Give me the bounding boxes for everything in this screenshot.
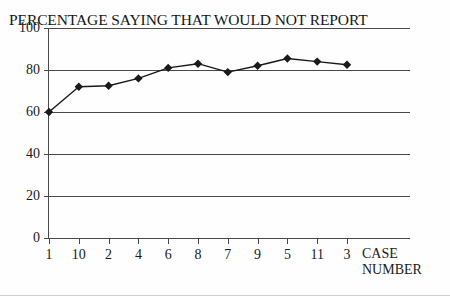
data-point-5 (283, 54, 291, 62)
data-point-8 (194, 60, 202, 68)
data-point-9 (253, 62, 261, 70)
x-axis-title: CASE NUMBER (362, 246, 422, 278)
series-markers (45, 54, 351, 116)
data-point-3 (343, 61, 351, 69)
data-point-11 (313, 57, 321, 65)
data-point-6 (164, 64, 172, 72)
data-point-2 (104, 82, 112, 90)
data-point-7 (224, 68, 232, 76)
chart-screenshot: PERCENTAGE SAYING THAT WOULD NOT REPORT … (0, 0, 450, 296)
x-axis-title-line1: CASE (362, 246, 422, 262)
x-axis-title-line2: NUMBER (362, 262, 422, 278)
data-point-4 (134, 74, 142, 82)
